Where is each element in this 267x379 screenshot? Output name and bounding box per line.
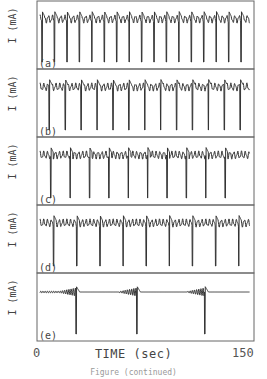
y-axis-label-d: I (mA) bbox=[7, 228, 18, 248]
panel-label: (a) bbox=[39, 58, 57, 69]
y-axis-label-e: I (mA) bbox=[7, 296, 18, 316]
y-axis-label-b: I (mA) bbox=[7, 92, 18, 112]
panel-frame bbox=[37, 273, 254, 341]
chart-figure: (a)(b)(c)(d)(e) 0 150 bbox=[0, 0, 267, 379]
x-axis-label: TIME (sec) bbox=[0, 347, 267, 361]
panel-frame bbox=[37, 1, 254, 69]
current-trace bbox=[40, 80, 250, 130]
current-trace bbox=[40, 287, 250, 334]
current-trace bbox=[40, 148, 250, 198]
panel-label: (e) bbox=[39, 330, 57, 341]
panel-label: (d) bbox=[39, 262, 57, 273]
y-axis-label-a: I (mA) bbox=[7, 24, 18, 44]
current-trace bbox=[40, 12, 250, 62]
panel-label: (b) bbox=[39, 126, 57, 137]
figure-caption: Figure (continued) bbox=[0, 368, 267, 377]
panel-label: (c) bbox=[39, 194, 57, 205]
y-axis-label-c: I (mA) bbox=[7, 160, 18, 180]
chart-panels: (a)(b)(c)(d)(e) bbox=[37, 1, 254, 341]
current-trace bbox=[40, 216, 250, 266]
